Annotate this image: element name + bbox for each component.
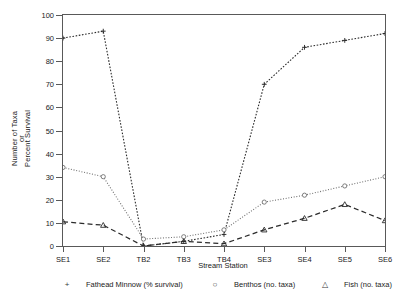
plot-area: 0102030405060708090100 SE1SE2TB2TB3TB4SE… bbox=[62, 14, 386, 247]
data-point-marker bbox=[262, 200, 266, 204]
y-axis-tick-mark bbox=[56, 200, 63, 201]
data-point-marker bbox=[262, 82, 267, 87]
chart-legend: +Fathead Minnow (% survival)○Benthos (no… bbox=[62, 279, 392, 293]
x-axis-tick-mark bbox=[305, 246, 306, 252]
data-point-marker bbox=[63, 165, 65, 169]
series-line bbox=[63, 204, 385, 246]
data-point-marker bbox=[343, 184, 347, 188]
data-point-marker bbox=[342, 202, 347, 207]
x-axis-tick-mark bbox=[264, 246, 265, 252]
y-axis-tick-label: 30 bbox=[46, 176, 54, 177]
data-point-marker bbox=[63, 36, 65, 41]
series-layer bbox=[63, 15, 385, 246]
y-axis-tick-label: 90 bbox=[46, 38, 54, 39]
y-axis-tick-mark bbox=[56, 61, 63, 62]
series-3 bbox=[63, 202, 385, 246]
y-axis-tick-mark bbox=[56, 107, 63, 108]
legend-label: Fathead Minnow (% survival) bbox=[86, 280, 183, 289]
legend-label: Fish (no. taxa) bbox=[344, 280, 392, 289]
y-axis-tick-label: 70 bbox=[46, 84, 54, 85]
data-point-marker bbox=[383, 31, 385, 36]
y-axis-tick-label: 100 bbox=[41, 15, 54, 16]
y-axis-tick-label: 60 bbox=[46, 107, 54, 108]
y-axis-tick-label: 20 bbox=[46, 199, 54, 200]
x-axis-tick-mark bbox=[144, 246, 145, 252]
x-axis-tick-mark bbox=[385, 246, 386, 252]
data-point-marker bbox=[101, 223, 106, 228]
x-axis-tick-mark bbox=[63, 246, 64, 252]
x-axis-tick-mark bbox=[103, 246, 104, 252]
legend-marker-triangle-icon: △ bbox=[320, 280, 330, 289]
y-axis-tick-mark bbox=[56, 15, 63, 16]
series-line bbox=[63, 31, 385, 246]
data-point-marker bbox=[101, 29, 106, 34]
y-axis-tick-mark bbox=[56, 38, 63, 39]
x-axis-tick-mark bbox=[224, 246, 225, 252]
data-point-marker bbox=[222, 232, 227, 237]
data-point-marker bbox=[342, 38, 347, 43]
y-axis-tick-mark bbox=[56, 177, 63, 178]
y-axis-tick-mark bbox=[56, 223, 63, 224]
series-1 bbox=[63, 29, 385, 246]
y-axis-tick-mark bbox=[56, 131, 63, 132]
x-axis-tick-mark bbox=[345, 246, 346, 252]
y-axis-tick-mark bbox=[56, 84, 63, 85]
x-axis-tick-mark bbox=[184, 246, 185, 252]
y-axis-tick-label: 0 bbox=[50, 246, 54, 247]
y-axis-tick-mark bbox=[56, 246, 63, 247]
data-point-marker bbox=[302, 193, 306, 197]
x-axis-title: Stream Station bbox=[62, 261, 384, 270]
data-point-marker bbox=[383, 175, 385, 179]
legend-label: Benthos (no. taxa) bbox=[234, 280, 295, 289]
data-point-marker bbox=[101, 175, 105, 179]
y-axis-tick-label: 40 bbox=[46, 153, 54, 154]
data-point-marker bbox=[222, 228, 226, 232]
legend-marker-circle-icon: ○ bbox=[210, 280, 220, 289]
data-point-marker bbox=[302, 216, 307, 221]
data-point-marker bbox=[141, 237, 145, 241]
chart-container: Percent Survival or Number of Taxa 01020… bbox=[0, 0, 407, 299]
legend-marker-plus-icon: + bbox=[62, 280, 72, 289]
y-axis-tick-label: 50 bbox=[46, 130, 54, 131]
y-axis-title-line-3: Number of Taxa bbox=[10, 84, 19, 194]
y-axis-tick-label: 80 bbox=[46, 61, 54, 62]
y-axis-title: Percent Survival or Number of Taxa bbox=[0, 60, 42, 220]
y-axis-tick-label: 10 bbox=[46, 222, 54, 223]
y-axis-tick-mark bbox=[56, 154, 63, 155]
